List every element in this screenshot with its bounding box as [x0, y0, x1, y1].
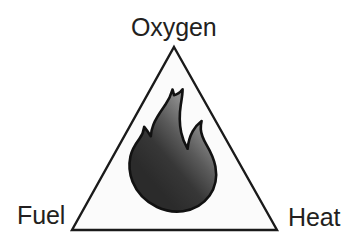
label-oxygen: Oxygen — [131, 15, 217, 40]
label-heat: Heat — [288, 205, 340, 230]
diagram-canvas: Oxygen Fuel Heat — [0, 0, 360, 247]
label-fuel: Fuel — [17, 203, 65, 228]
